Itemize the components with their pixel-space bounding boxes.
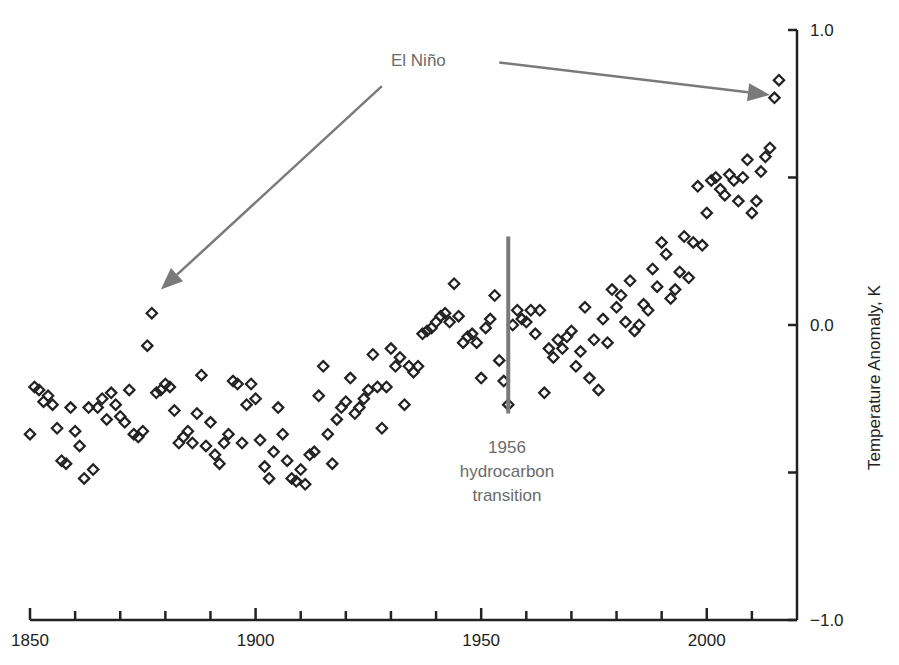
data-point-diamond (205, 417, 215, 427)
data-point-diamond (702, 208, 712, 218)
data-point-diamond (318, 361, 328, 371)
data-point-diamond (264, 473, 274, 483)
data-point-diamond (598, 314, 608, 324)
data-point-diamond (530, 329, 540, 339)
data-point-diamond (187, 438, 197, 448)
data-point-diamond (192, 408, 202, 418)
data-point-diamond (733, 196, 743, 206)
arrowhead-icon (747, 83, 770, 101)
data-point-diamond (674, 267, 684, 277)
data-point-diamond (120, 417, 130, 427)
x-tick-label: 1900 (237, 631, 275, 650)
temperature-anomaly-chart: 1850190019502000 1.00.0−1.0 Temperature … (0, 0, 899, 665)
data-point-diamond (458, 338, 468, 348)
data-point-diamond (79, 473, 89, 483)
data-points (25, 75, 784, 490)
data-point-diamond (345, 373, 355, 383)
data-point-diamond (634, 320, 644, 330)
el-nino-label: El Niño (391, 51, 446, 70)
data-point-diamond (201, 441, 211, 451)
data-point-diamond (102, 414, 112, 424)
y-tick-label: −1.0 (810, 611, 844, 630)
data-point-diamond (237, 438, 247, 448)
transition-line2-label: transition (473, 486, 542, 505)
data-point-diamond (693, 181, 703, 191)
data-point-diamond (327, 458, 337, 468)
data-point-diamond (715, 184, 725, 194)
annotations (161, 62, 770, 413)
data-point-diamond (625, 276, 635, 286)
y-axis: 1.00.0−1.0 (788, 21, 844, 630)
y-axis-label: Temperature Anomaly, K (865, 284, 884, 470)
arrow-shaft (177, 86, 382, 275)
data-point-diamond (449, 279, 459, 289)
x-axis: 1850190019502000 (11, 608, 797, 650)
data-point-diamond (74, 441, 84, 451)
data-point-diamond (494, 355, 504, 365)
data-point-diamond (368, 349, 378, 359)
data-point-diamond (684, 273, 694, 283)
data-point-diamond (259, 461, 269, 471)
data-point-diamond (246, 379, 256, 389)
data-point-diamond (584, 373, 594, 383)
data-point-diamond (638, 299, 648, 309)
data-point-diamond (147, 308, 157, 318)
data-point-diamond (336, 402, 346, 412)
data-point-diamond (88, 464, 98, 474)
data-point-diamond (65, 402, 75, 412)
data-point-diamond (720, 190, 730, 200)
y-tick-label: 0.0 (810, 316, 834, 335)
data-point-diamond (652, 281, 662, 291)
data-point-diamond (571, 361, 581, 371)
data-point-diamond (323, 429, 333, 439)
data-point-diamond (476, 373, 486, 383)
data-point-diamond (169, 405, 179, 415)
data-point-diamond (296, 464, 306, 474)
data-point-diamond (332, 414, 342, 424)
data-point-diamond (350, 408, 360, 418)
x-tick-label: 1950 (462, 631, 500, 650)
data-point-diamond (115, 411, 125, 421)
data-point-diamond (25, 429, 35, 439)
data-point-diamond (399, 399, 409, 409)
data-point-diamond (756, 166, 766, 176)
data-point-diamond (661, 249, 671, 259)
y-tick-label: 1.0 (810, 21, 834, 40)
data-point-diamond (679, 231, 689, 241)
data-point-diamond (377, 423, 387, 433)
data-point-diamond (174, 438, 184, 448)
data-point-diamond (751, 196, 761, 206)
data-point-diamond (589, 335, 599, 345)
data-point-diamond (250, 394, 260, 404)
data-point-diamond (593, 385, 603, 395)
data-point-diamond (196, 370, 206, 380)
data-point-diamond (629, 326, 639, 336)
data-point-diamond (142, 340, 152, 350)
data-point-diamond (539, 388, 549, 398)
data-point-diamond (106, 388, 116, 398)
data-point-diamond (386, 343, 396, 353)
data-point-diamond (431, 317, 441, 327)
data-point-diamond (453, 311, 463, 321)
x-tick-label: 1850 (11, 631, 49, 650)
data-point-diamond (607, 284, 617, 294)
data-point-diamond (611, 302, 621, 312)
data-point-diamond (747, 208, 757, 218)
data-point-diamond (241, 399, 251, 409)
data-point-diamond (490, 290, 500, 300)
data-point-diamond (647, 264, 657, 274)
data-point-diamond (643, 305, 653, 315)
data-point-diamond (314, 391, 324, 401)
data-point-diamond (52, 423, 62, 433)
data-point-diamond (602, 338, 612, 348)
data-point-diamond (774, 75, 784, 85)
data-point-diamond (620, 317, 630, 327)
data-point-diamond (183, 426, 193, 436)
data-point-diamond (724, 169, 734, 179)
data-point-diamond (566, 326, 576, 336)
data-point-diamond (580, 302, 590, 312)
data-point-diamond (255, 435, 265, 445)
transition-year-label: 1956 (488, 438, 526, 457)
data-point-diamond (769, 93, 779, 103)
data-point-diamond (111, 399, 121, 409)
